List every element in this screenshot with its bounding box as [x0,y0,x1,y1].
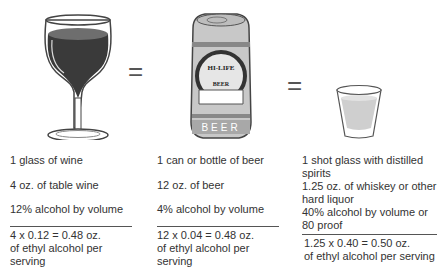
spirits-info: 1 shot glass with distilled spirits 1.25… [302,148,437,263]
wine-amount: 4 oz. of table wine [10,179,132,192]
wine-result: of ethyl alcohol per serving [10,242,132,268]
equals-sign: = [287,70,302,101]
equals-sign: = [128,56,143,87]
wine-info: 1 glass of wine 4 oz. of table wine 12% … [10,148,132,268]
shot-glass-icon [333,84,385,140]
beer-abv: 4% alcohol by volume [157,203,279,216]
divider [10,226,132,227]
spirits-abv-2: 80 proof [302,219,437,232]
beer-serving: 1 can or bottle of beer [157,154,279,167]
wine-abv: 12% alcohol by volume [10,203,132,216]
spirits-calc: 1.25 x 0.40 = 0.50 oz. [302,237,437,250]
divider [157,226,279,227]
wine-glass-icon [38,10,118,140]
wine-calc: 4 x 0.12 = 0.48 oz. [10,229,132,242]
beer-amount: 12 oz. of beer [157,179,279,192]
spirits-serving-2: spirits [302,167,437,180]
beer-can-icon: HI-LIFE BEER BEER [187,10,255,140]
wine-serving: 1 glass of wine [10,154,132,167]
spirits-abv-1: 40% alcohol by volume or [302,206,437,219]
spirits-serving-1: 1 shot glass with distilled [302,154,437,167]
can-label-band: BEER [201,122,240,133]
spirits-amount-2: hard liquor [302,193,437,206]
can-label-top: HI-LIFE [208,64,235,72]
beer-calc: 12 x 0.04 = 0.48 oz. [157,229,279,242]
beer-info: 1 can or bottle of beer 12 oz. of beer 4… [157,148,279,268]
spirits-amount-1: 1.25 oz. of whiskey or other [302,180,437,193]
beer-result: of ethyl alcohol per serving [157,242,279,268]
divider [302,234,437,235]
can-label-mid: BEER [213,81,230,87]
spirits-result: of ethyl alcohol per serving [302,250,437,263]
